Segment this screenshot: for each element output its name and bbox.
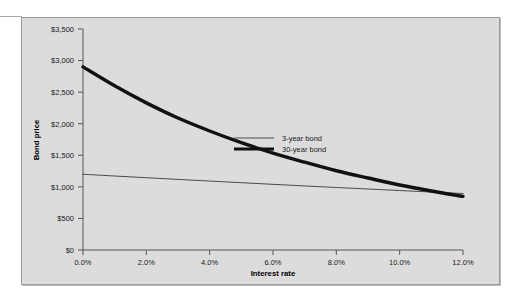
legend-label-30-year-bond: 30-year bond — [282, 145, 326, 154]
y-tick-label: $3,500 — [51, 25, 74, 34]
x-axis-tick-labels: 0.0%2.0%4.0%6.0%8.0%10.0%12.0% — [74, 258, 474, 267]
x-tick-label: 6.0% — [264, 258, 281, 267]
x-axis-title: Interest rate — [251, 269, 296, 278]
x-tick-label: 12.0% — [452, 258, 474, 267]
x-tick-label: 0.0% — [74, 258, 91, 267]
x-tick-label: 8.0% — [328, 258, 345, 267]
x-axis-ticks — [83, 250, 463, 255]
y-tick-label: $0 — [66, 246, 74, 255]
y-axis-title: Bond price — [32, 119, 41, 160]
x-tick-label: 2.0% — [138, 258, 155, 267]
x-tick-label: 10.0% — [389, 258, 411, 267]
y-axis-tick-labels: $0$500$1,000$1,500$2,000$2,500$3,000$3,5… — [51, 25, 74, 255]
y-tick-label: $2,500 — [51, 88, 74, 97]
series-line-3-year-bond — [83, 174, 463, 193]
x-tick-label: 4.0% — [201, 258, 218, 267]
y-tick-label: $2,000 — [51, 120, 74, 129]
top-divider-rule — [0, 16, 22, 17]
series-group — [83, 67, 463, 196]
y-tick-label: $3,000 — [51, 56, 74, 65]
y-tick-label: $1,500 — [51, 151, 74, 160]
y-axis-ticks — [78, 29, 83, 250]
y-tick-label: $1,000 — [51, 183, 74, 192]
y-tick-label: $500 — [57, 214, 74, 223]
bond-price-vs-interest-rate-chart: $0$500$1,000$1,500$2,000$2,500$3,000$3,5… — [22, 18, 501, 286]
axis-lines — [83, 29, 463, 250]
legend-label-3-year-bond: 3-year bond — [282, 134, 322, 143]
chart-panel: $0$500$1,000$1,500$2,000$2,500$3,000$3,5… — [21, 17, 500, 285]
